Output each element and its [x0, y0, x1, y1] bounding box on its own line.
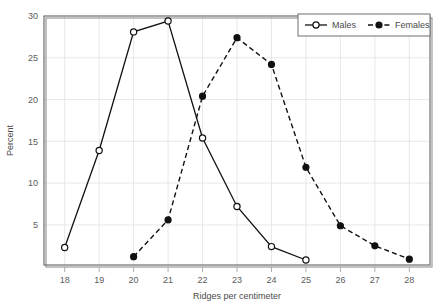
y-tick-label: 15: [28, 137, 38, 147]
x-tick-label: 22: [198, 275, 208, 285]
x-tick-label: 19: [94, 275, 104, 285]
x-tick-label: 20: [129, 275, 139, 285]
x-tick-label: 26: [335, 275, 345, 285]
y-axis-ticks: 51015202530: [28, 11, 38, 230]
x-tick-label: 25: [301, 275, 311, 285]
x-tick-label: 24: [266, 275, 276, 285]
x-axis-ticks: 1819202122232425262728: [60, 267, 415, 285]
data-point-males-19[interactable]: [96, 147, 102, 153]
x-axis-title: Ridges per centimeter: [193, 291, 281, 301]
data-point-males-25[interactable]: [303, 257, 309, 263]
data-point-females-22[interactable]: [200, 93, 206, 99]
data-point-females-25[interactable]: [303, 164, 309, 170]
data-point-females-24[interactable]: [268, 61, 274, 67]
x-tick-label: 27: [370, 275, 380, 285]
y-tick-label: 30: [28, 11, 38, 21]
x-tick-label: 21: [163, 275, 173, 285]
y-tick-label: 10: [28, 178, 38, 188]
y-axis-title: Percent: [5, 124, 15, 156]
chart-container: 510152025301819202122232425262728Ridges …: [0, 0, 439, 307]
x-tick-label: 28: [404, 275, 414, 285]
data-point-males-24[interactable]: [268, 244, 274, 250]
legend-label-males: Males: [332, 20, 357, 30]
data-point-males-23[interactable]: [234, 203, 240, 209]
data-point-females-20[interactable]: [131, 254, 137, 260]
y-tick-label: 5: [33, 220, 38, 230]
legend: MalesFemales: [298, 14, 430, 36]
data-point-males-20[interactable]: [131, 29, 137, 35]
x-tick-label: 23: [232, 275, 242, 285]
series-line-males: [65, 21, 306, 260]
legend-label-females: Females: [395, 20, 430, 30]
data-point-females-28[interactable]: [406, 256, 412, 262]
data-point-females-23[interactable]: [234, 35, 240, 41]
legend-marker-males: [313, 22, 319, 28]
x-tick-label: 18: [60, 275, 70, 285]
series-males: [62, 18, 309, 263]
y-tick-label: 20: [28, 95, 38, 105]
plot-frame-shadow: [46, 18, 432, 267]
data-point-males-18[interactable]: [62, 244, 68, 250]
data-point-males-22[interactable]: [199, 135, 205, 141]
line-chart: 510152025301819202122232425262728Ridges …: [0, 0, 439, 307]
data-point-females-26[interactable]: [337, 223, 343, 229]
data-point-females-21[interactable]: [165, 217, 171, 223]
legend-marker-females: [376, 22, 382, 28]
y-tick-label: 25: [28, 53, 38, 63]
data-point-males-21[interactable]: [165, 18, 171, 24]
data-point-females-27[interactable]: [372, 243, 378, 249]
